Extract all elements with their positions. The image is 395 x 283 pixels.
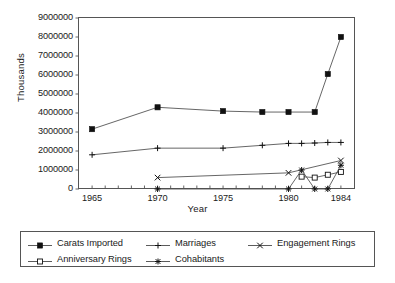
y-tick-label: 1000000 xyxy=(3,165,73,174)
x-tick-label: 1980 xyxy=(269,194,309,203)
legend-label: Engagement Rings xyxy=(277,238,355,248)
x-tick-label: 1975 xyxy=(203,194,243,203)
data-series-layer xyxy=(89,34,344,192)
filled-square-icon xyxy=(27,237,53,248)
legend-label: Anniversary Rings xyxy=(57,254,132,264)
y-tick-label: 2000000 xyxy=(3,146,73,155)
series-anniversary-rings xyxy=(299,169,343,180)
legend-item-cohabitants[interactable]: Cohabitants xyxy=(145,251,224,266)
y-tick-label: 7000000 xyxy=(3,51,73,60)
x-tick-label: 1965 xyxy=(72,194,112,203)
cross-icon xyxy=(247,237,273,248)
y-tick-label: 5000000 xyxy=(3,89,73,98)
y-tick-label: 8000000 xyxy=(3,32,73,41)
legend-item-anniversary-rings[interactable]: Anniversary Rings xyxy=(27,251,132,266)
legend-label: Carats Imported xyxy=(57,238,123,248)
open-square-icon xyxy=(27,253,53,264)
axis-ticks xyxy=(76,18,341,189)
bowtie-icon xyxy=(145,253,171,264)
series-carats-imported xyxy=(89,34,343,131)
chart-container: Thousands 010000002000000300000040000005… xyxy=(0,0,395,283)
y-tick-label: 6000000 xyxy=(3,70,73,79)
y-tick-label: 3000000 xyxy=(3,127,73,136)
legend: Carats ImportedMarriagesEngagement Rings… xyxy=(20,231,375,267)
legend-item-engagement-rings[interactable]: Engagement Rings xyxy=(247,235,355,250)
legend-label: Cohabitants xyxy=(175,254,224,264)
legend-item-marriages[interactable]: Marriages xyxy=(145,235,216,250)
legend-label: Marriages xyxy=(175,238,216,248)
x-tick-label: 1984 xyxy=(321,194,361,203)
plus-icon xyxy=(145,237,171,248)
series-marriages xyxy=(89,139,344,157)
x-tick-label: 1970 xyxy=(138,194,178,203)
x-axis-title: Year xyxy=(0,203,395,214)
y-tick-label: 0 xyxy=(3,184,73,193)
y-tick-label: 9000000 xyxy=(3,13,73,22)
legend-item-carats-imported[interactable]: Carats Imported xyxy=(27,235,123,250)
y-tick-label: 4000000 xyxy=(3,108,73,117)
